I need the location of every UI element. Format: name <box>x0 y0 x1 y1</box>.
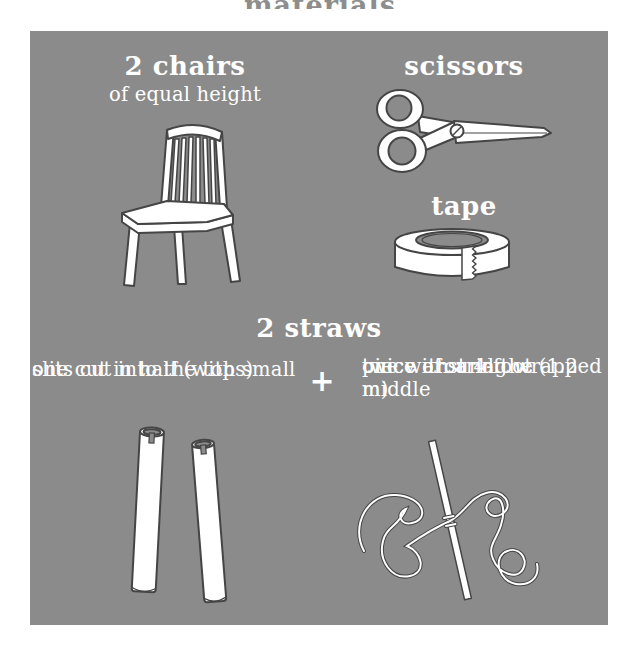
straw-string-icon <box>352 433 587 623</box>
straws-title: 2 straws <box>30 313 608 343</box>
scissors-title: scissors <box>340 51 588 81</box>
scissors-icon <box>362 88 558 180</box>
plus-sign: + <box>302 363 342 398</box>
chairs-title: 2 chairs <box>30 51 340 81</box>
page-title-clipped: materials <box>0 0 640 9</box>
chairs-subtitle: of equal height <box>30 83 340 106</box>
page: materials 2 chairs of equal height <box>0 0 640 654</box>
straw-halves-icon <box>112 422 237 607</box>
tape-icon <box>392 222 516 290</box>
tape-title: tape <box>340 191 588 221</box>
materials-panel: 2 chairs of equal height scissors <box>30 31 608 625</box>
page-title: materials <box>244 0 396 9</box>
straws-right-caption-line3: twice around the middle <box>362 355 602 401</box>
straws-left-caption-line2: slits cut into the tops) <box>32 357 253 382</box>
chair-icon <box>110 116 265 288</box>
